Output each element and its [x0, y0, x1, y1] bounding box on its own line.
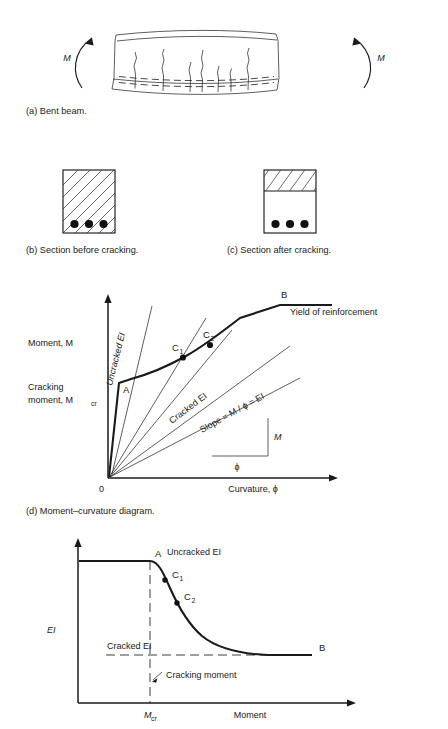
ei-y-axis-arrowhead [74, 538, 81, 547]
mc-point-b-label: B [281, 289, 287, 300]
mc-triangle-phi-label: ϕ [234, 462, 239, 472]
figure-canvas: M M (a) Bent [0, 0, 448, 729]
panel-b-section-before-cracking [48, 158, 132, 242]
ei-point-c2-label: C 2 [184, 591, 196, 604]
rebar-dot-icon [300, 220, 308, 228]
ei-uncracked-label: Uncracked EI [167, 547, 221, 557]
mc-point-c2-marker [207, 342, 213, 348]
mc-point-c1-label: C 1 [172, 342, 184, 355]
panel-a-moment-label-right: M [377, 53, 385, 63]
mc-axes [104, 294, 338, 482]
panel-d-caption: (d) Moment–curvature diagram. [26, 506, 155, 516]
figure-root: M M (a) Bent [0, 0, 448, 729]
mc-point-a-label: A [123, 384, 130, 395]
mc-x-axis-title: Curvature, ϕ [228, 484, 278, 494]
ei-point-c2-marker [174, 600, 179, 605]
rebar-dot-icon [286, 220, 294, 228]
ei-axes [74, 538, 356, 707]
svg-text:moment, M: moment, M [28, 395, 73, 405]
svg-text:cr: cr [91, 400, 97, 407]
ei-point-b-label: B [319, 642, 325, 653]
mc-y-axis-arrowhead [104, 294, 111, 303]
ei-point-c1-marker [162, 577, 167, 582]
ei-point-c1-label: C 1 [172, 569, 184, 582]
rebar-dot-icon [99, 220, 107, 228]
panel-a-bent-beam: M M [63, 30, 385, 94]
rebar-dot-icon [271, 220, 279, 228]
ei-cracking-moment-leader [152, 672, 162, 683]
rebar-dot-icon [85, 220, 93, 228]
mc-triangle-m-label: M [274, 432, 282, 442]
svg-text:C: C [172, 569, 179, 580]
chart-moment-curvature: A C 1 C 2 B M Moment, M Cracking moment,… [28, 289, 378, 494]
ei-cracking-moment-callout: Cracking moment [166, 670, 237, 680]
panel-a-moment-label-left: M [63, 53, 71, 63]
svg-text:cr: cr [151, 715, 157, 722]
svg-text:2: 2 [211, 335, 215, 342]
panel-c-section-after-cracking [250, 160, 336, 233]
mc-y-axis-title-text: Moment, M [28, 338, 73, 348]
mc-slope-formula-label: Slope = M / ϕ = EI [198, 391, 266, 435]
panel-b-caption: (b) Section before cracking. [26, 245, 138, 255]
mc-y-axis-title: M Moment, M [28, 338, 73, 348]
ei-y-axis-title: EI [47, 625, 56, 635]
mc-x-axis-arrowhead [329, 474, 338, 481]
rebar-dot-icon [70, 220, 78, 228]
chart-ei-vs-moment: A C 1 C 2 B EI Uncracked EI Cracked EI C… [47, 538, 356, 722]
svg-text:C: C [203, 329, 210, 340]
mc-origin-label: 0 [99, 484, 104, 494]
mc-cracking-moment-axis-label: Cracking moment, M cr [28, 382, 97, 407]
moment-arrow-left-icon [75, 38, 93, 88]
ei-x-axis-title: Moment [234, 710, 267, 720]
svg-text:1: 1 [180, 575, 184, 582]
section-b-rebar-dots [70, 220, 107, 228]
svg-text:C: C [184, 591, 191, 602]
svg-text:Cracking: Cracking [28, 382, 64, 392]
section-b-hatching [48, 158, 132, 242]
svg-text:C: C [172, 342, 179, 353]
ei-x-tick-mcr: M cr [144, 710, 157, 722]
ei-cracked-label: Cracked EI [107, 641, 152, 651]
mc-yield-label: Yield of reinforcement [290, 307, 378, 317]
mc-curve [109, 305, 332, 477]
svg-text:1: 1 [180, 348, 184, 355]
moment-arrow-right-icon [352, 38, 370, 88]
panel-a-caption: (a) Bent beam. [26, 106, 87, 116]
mc-point-c1-marker [180, 354, 186, 360]
svg-text:2: 2 [192, 597, 196, 604]
section-c-rebar-dots [271, 220, 308, 228]
ei-point-a-label: A [155, 548, 162, 559]
beam-flexural-cracks [134, 48, 249, 92]
ei-x-axis-arrowhead [347, 699, 356, 706]
panel-c-caption: (c) Section after cracking. [227, 245, 331, 255]
